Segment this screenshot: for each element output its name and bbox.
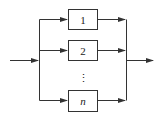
ellipsis: ⋮ (78, 72, 89, 84)
block-n-label: n (80, 95, 86, 107)
block-2-label: 2 (80, 45, 86, 57)
parallel-diagram: 1 2 n ⋮ (0, 0, 163, 121)
block-1-label: 1 (80, 14, 86, 26)
